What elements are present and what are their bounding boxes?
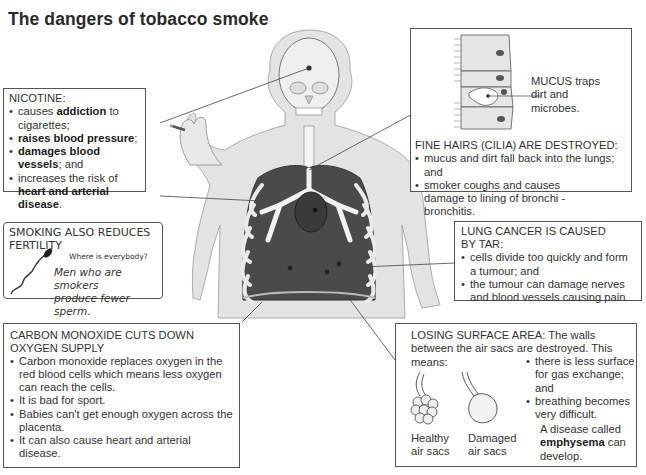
speech-text: Where is everybody? xyxy=(69,250,148,263)
nicotine-item: causes addiction to cigarettes; xyxy=(9,105,140,132)
cilia-item: mucus and dirt fall back into the lungs;… xyxy=(415,152,630,179)
lung-cancer-item: cells divide too quickly and form a tumo… xyxy=(461,251,635,277)
lung-cancer-heading-line1: LUNG CANCER IS CAUSED xyxy=(461,225,635,238)
damaged-air-sacs-icon xyxy=(458,370,503,428)
healthy-label: Healthy air sacs xyxy=(411,432,450,459)
co-item: Babies can't get enough oxygen across th… xyxy=(10,408,233,434)
healthy-air-sacs-icon xyxy=(408,370,448,428)
fertility-caption: Men who are smokers produce fewer sperm. xyxy=(54,266,162,318)
emphysema-note: A disease called emphysema can develop. xyxy=(540,423,630,463)
co-item: It is bad for sport. xyxy=(10,394,233,407)
damaged-label: Damaged air sacs xyxy=(468,432,517,459)
lung-cancer-box: LUNG CANCER IS CAUSED BY TAR: cells divi… xyxy=(454,221,642,301)
mucus-label: MUCUS traps dirt and microbes. xyxy=(531,75,600,115)
trachea xyxy=(304,126,314,168)
heart xyxy=(295,192,327,232)
nicotine-item: damages blood vessels; and xyxy=(9,145,140,172)
surface-area-item: there is less surface for gas exchange; … xyxy=(526,355,638,395)
lung-cancer-item: the tumour can damage nerves and blood v… xyxy=(461,278,635,304)
nicotine-item: raises blood pressure; xyxy=(9,132,140,145)
surface-area-item: breathing becomes very difficult. xyxy=(526,395,638,422)
co-heading-line2: OXYGEN SUPPLY xyxy=(10,342,233,355)
co-item: It can also cause heart and arterial dis… xyxy=(10,434,233,460)
nicotine-box: NICOTINE: causes addiction to cigarettes… xyxy=(3,88,146,192)
carbon-monoxide-box: CARBON MONOXIDE CUTS DOWN OXYGEN SUPPLY … xyxy=(3,323,240,468)
nicotine-heading: NICOTINE: xyxy=(9,92,140,105)
cilia-item: smoker coughs and causes damage to linin… xyxy=(415,179,630,219)
co-heading-line1: CARBON MONOXIDE CUTS DOWN xyxy=(10,329,233,342)
hand xyxy=(180,117,222,165)
cilia-heading: FINE HAIRS (CILIA) ARE DESTROYED: xyxy=(415,139,630,152)
co-item: Carbon monoxide replaces oxygen in the r… xyxy=(10,355,233,394)
fertility-heading-line1: SMOKING ALSO REDUCES xyxy=(9,226,157,239)
fertility-box: SMOKING ALSO REDUCES FERTILITY Where is … xyxy=(3,222,163,299)
nicotine-item: increases the risk of heart and arterial… xyxy=(9,172,140,212)
cilia-box: MUCUS traps dirt and microbes. FINE HAIR… xyxy=(410,28,632,192)
lung-cancer-heading-line2: BY TAR: xyxy=(461,238,635,251)
surface-area-box: LOSING SURFACE AREA: The walls between t… xyxy=(395,323,637,467)
sperm-icon xyxy=(6,248,56,298)
